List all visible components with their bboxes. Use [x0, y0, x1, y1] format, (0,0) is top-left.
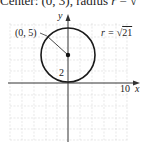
radius-label: r = √21 [101, 27, 132, 38]
circle-graph: y x 10 2 (0, 5) r = √21 [0, 0, 150, 146]
x-tick-label: 10 [120, 83, 130, 94]
center-dot [66, 53, 70, 57]
radius-label-value: 21 [122, 27, 132, 38]
radius-line [47, 36, 68, 55]
x-axis-label: x [134, 83, 140, 94]
y-axis-label: y [57, 10, 63, 21]
y-tick-label: 2 [59, 67, 64, 78]
point-label: (0, 5) [15, 27, 37, 39]
radius-label-prefix: r = [101, 27, 117, 38]
y-axis-arrow-icon [66, 14, 71, 21]
